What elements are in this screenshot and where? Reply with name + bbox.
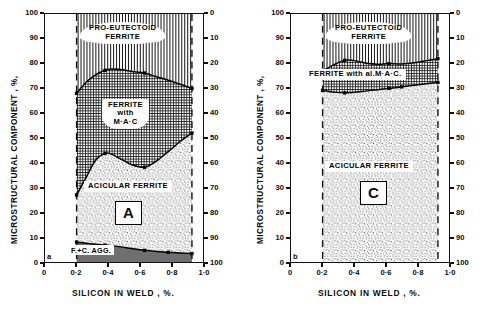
x-tick-label: 0·6 [374,268,398,277]
x-tick-mark [449,263,450,267]
y-tick-mark-right [204,212,208,213]
y-tick-label-right: 10 [210,33,232,42]
y-tick-mark-right [204,112,208,113]
region-acicular-ferrite [323,82,438,262]
y-tick-mark-left [40,162,44,163]
data-point-marker [103,152,106,155]
x-tick-label: 0·8 [406,268,430,277]
x-tick-label: 0·6 [128,268,152,277]
y-tick-label-left: 0 [260,258,284,267]
plot-area-c [290,13,450,263]
plot-render-c [291,14,449,262]
y-tick-label-right: 50 [456,133,478,142]
data-point-marker [143,71,146,74]
y-tick-label-left: 20 [260,208,284,217]
x-tick-mark [75,263,76,267]
x-tick-label: 0·2 [64,268,88,277]
x-tick-mark [107,263,108,267]
y-tick-mark-right [204,12,208,13]
x-axis-label-a: SILICON IN WELD , %. [72,288,174,298]
x-tick-mark [353,263,354,267]
y-tick-mark-left [286,37,290,38]
region-label-pro-eutectoid-ferrite: PRO-EUTECTOIDFERRITE [80,22,165,44]
y-tick-label-left: 80 [260,58,284,67]
data-point-marker [103,69,106,72]
y-tick-label-left: 100 [260,8,284,17]
y-tick-mark-left [40,212,44,213]
y-tick-mark-right [450,37,454,38]
y-tick-label-left: 50 [260,133,284,142]
y-tick-mark-right [204,162,208,163]
y-tick-label-right: 40 [210,108,232,117]
x-tick-label: 1·0 [438,268,462,277]
y-tick-mark-right [204,237,208,238]
y-tick-label-right: 50 [210,133,232,142]
y-tick-label-left: 20 [14,208,38,217]
y-tick-label-right: 0 [210,8,232,17]
y-tick-label-right: 100 [456,258,478,267]
y-tick-mark-right [450,237,454,238]
y-tick-label-left: 60 [14,108,38,117]
y-tick-mark-right [450,62,454,63]
y-tick-mark-left [286,212,290,213]
region-label-f-c-agg: F.+C. AGG. [68,245,114,255]
y-tick-label-right: 90 [210,233,232,242]
y-tick-mark-right [450,87,454,88]
y-tick-mark-left [40,37,44,38]
y-tick-mark-left [40,87,44,88]
x-tick-mark [43,263,44,267]
y-tick-label-right: 80 [210,208,232,217]
y-tick-label-left: 80 [14,58,38,67]
y-tick-label-left: 30 [260,183,284,192]
y-tick-mark-right [204,187,208,188]
y-tick-label-left: 10 [14,233,38,242]
data-point-marker [143,166,146,169]
x-tick-label: 0·4 [96,268,120,277]
x-tick-mark [289,263,290,267]
y-tick-mark-right [450,112,454,113]
y-tick-mark-left [286,187,290,188]
figure-root: MICROSTRUCTURAL COMPONENT , %, SILICON I… [0,0,489,310]
region-label-acicular-ferrite: ACICULAR FERRITE [325,161,413,172]
panel-a: MICROSTRUCTURAL COMPONENT , %, SILICON I… [0,0,245,310]
y-tick-mark-right [204,87,208,88]
data-point-marker [387,62,390,65]
y-tick-label-left: 60 [260,108,284,117]
panel-marker-c: b [293,252,298,261]
panel-marker-a: a [47,252,51,261]
panel-badge-A: A [115,201,142,225]
y-tick-mark-right [450,187,454,188]
y-tick-label-left: 0 [14,258,38,267]
y-tick-label-left: 70 [14,83,38,92]
y-tick-label-left: 70 [260,83,284,92]
y-tick-label-right: 90 [456,233,478,242]
y-tick-label-right: 40 [456,108,478,117]
y-tick-label-right: 70 [456,183,478,192]
panel-c: MICROSTRUCTURAL COMPONENT , %, SILICON I… [245,0,489,310]
x-tick-mark [139,263,140,267]
y-tick-mark-left [40,112,44,113]
data-point-marker [387,87,390,90]
data-point-marker [436,57,439,60]
y-tick-mark-left [40,12,44,13]
y-tick-label-right: 60 [210,158,232,167]
y-tick-label-right: 30 [456,83,478,92]
y-tick-label-left: 40 [260,158,284,167]
data-point-marker [343,91,346,94]
y-tick-label-right: 80 [456,208,478,217]
y-tick-label-right: 0 [456,8,478,17]
y-tick-label-left: 90 [260,33,284,42]
x-axis-label-c: SILICON IN WELD , %. [318,288,420,298]
region-label-pro-eutectoid-ferrite: PRO-EUTECTOIDFERRITE [326,22,411,44]
y-tick-mark-right [450,12,454,13]
y-tick-mark-left [40,137,44,138]
y-tick-mark-left [40,187,44,188]
data-point-marker [167,251,170,254]
y-tick-mark-left [286,12,290,13]
y-tick-mark-right [204,37,208,38]
x-tick-mark [321,263,322,267]
x-tick-label: 0·2 [310,268,334,277]
y-tick-mark-left [40,237,44,238]
region-label-acicular-ferrite: ACICULAR FERRITE [84,181,172,192]
x-tick-label: 0 [32,268,56,277]
